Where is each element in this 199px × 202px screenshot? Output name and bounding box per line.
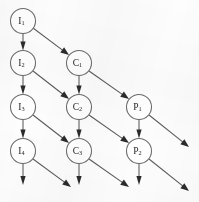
- node-c3[interactable]: C3: [67, 139, 92, 164]
- node-i1[interactable]: I1: [11, 9, 36, 34]
- edge-line: [33, 159, 65, 183]
- edge-I4-to-open: [33, 159, 71, 187]
- node-p2[interactable]: P2: [127, 139, 152, 164]
- edge-arrowhead: [136, 130, 141, 139]
- edge-line: [149, 159, 183, 186]
- edges-layer: [20, 28, 189, 191]
- edge-P1-to-open: [149, 115, 189, 147]
- edge-I4-to-open: [20, 164, 25, 186]
- edge-arrowhead: [20, 176, 25, 185]
- diagram-svg: I1I2I3I4C1C2C3P1P2: [0, 0, 199, 202]
- edge-I2-to-I3: [20, 76, 25, 95]
- edge-arrowhead: [120, 92, 129, 99]
- edge-line: [89, 159, 123, 183]
- edge-C2-to-P2: [89, 115, 129, 143]
- edge-arrowhead: [62, 179, 71, 187]
- edge-P1-to-P2: [136, 120, 141, 139]
- edge-arrowhead: [76, 176, 81, 185]
- edge-arrowhead: [120, 136, 129, 143]
- node-label-subscript: 3: [79, 150, 82, 157]
- diagram-canvas: I1I2I3I4C1C2C3P1P2: [0, 0, 199, 202]
- edge-P2-to-open: [149, 159, 189, 191]
- edge-arrowhead: [120, 180, 129, 187]
- edge-P2-to-open: [136, 164, 141, 186]
- edge-arrowhead: [136, 176, 141, 185]
- edge-line: [33, 28, 63, 51]
- edge-C3-to-open: [89, 159, 129, 187]
- edge-arrowhead: [60, 91, 69, 99]
- edge-C2-to-C3: [76, 120, 81, 139]
- edge-I3-to-C3: [33, 115, 69, 143]
- edge-arrowhead: [60, 135, 69, 143]
- node-c2[interactable]: C2: [67, 95, 92, 120]
- edge-C3-to-open: [76, 164, 81, 186]
- node-i2[interactable]: I2: [11, 51, 36, 76]
- node-p1[interactable]: P1: [127, 95, 152, 120]
- node-i4[interactable]: I4: [11, 139, 36, 164]
- edge-arrowhead: [20, 86, 25, 95]
- edge-arrowhead: [20, 42, 25, 51]
- node-label-subscript: 1: [22, 20, 25, 27]
- edge-line: [33, 71, 63, 95]
- edge-line: [33, 115, 63, 139]
- edge-line: [89, 71, 123, 95]
- edge-C1-to-P1: [89, 71, 129, 99]
- edge-I2-to-C2: [33, 71, 69, 99]
- edge-arrowhead: [76, 86, 81, 95]
- node-label-subscript: 3: [22, 106, 25, 113]
- node-label-subscript: 2: [79, 106, 82, 113]
- edge-arrowhead: [180, 183, 189, 191]
- edge-arrowhead: [60, 47, 69, 55]
- edge-line: [149, 115, 183, 142]
- node-label-subscript: 2: [139, 150, 142, 157]
- edge-arrowhead: [20, 130, 25, 139]
- node-i3[interactable]: I3: [11, 95, 36, 120]
- edge-I1-to-I2: [20, 34, 25, 51]
- edge-C1-to-C2: [76, 76, 81, 95]
- edge-I1-to-C1: [33, 28, 69, 55]
- edge-line: [89, 115, 123, 139]
- node-label-subscript: 1: [79, 62, 82, 69]
- edge-arrowhead: [180, 139, 189, 147]
- edge-I3-to-I4: [20, 120, 25, 139]
- node-label-subscript: 1: [139, 106, 142, 113]
- node-label-subscript: 2: [22, 62, 25, 69]
- node-c1[interactable]: C1: [67, 51, 92, 76]
- edge-arrowhead: [76, 130, 81, 139]
